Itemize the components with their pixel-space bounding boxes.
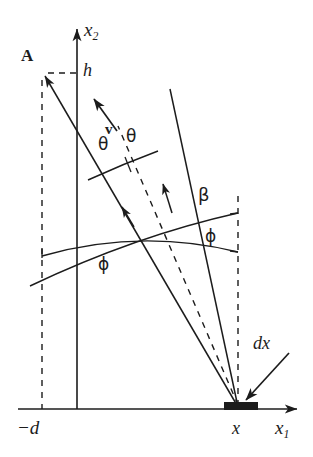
label-x1-axis: x1 xyxy=(275,418,289,440)
label-theta-right: θ xyxy=(126,128,136,145)
tick-theta-bisector xyxy=(125,157,131,172)
direction-arrowhead-right-ray xyxy=(163,184,172,213)
cone-bisector-dashed xyxy=(118,126,238,405)
label-element-dx: dx xyxy=(253,334,270,352)
label-x2-axis: x2 xyxy=(84,20,98,42)
label-offset-minus-d: −d xyxy=(17,418,39,437)
label-height-h: h xyxy=(83,61,92,79)
cone-ray-right xyxy=(170,89,238,407)
direction-arrowhead-left-ray xyxy=(122,207,134,227)
label-phi-right: ϕ xyxy=(205,228,216,245)
dx-callout-arrow xyxy=(246,353,289,400)
label-phi-left: ϕ xyxy=(98,256,109,273)
label-theta-left: θ xyxy=(98,136,108,153)
label-beta: β xyxy=(198,186,210,204)
surface-element-dx xyxy=(224,402,258,410)
diagram-canvas xyxy=(0,0,313,457)
arc-theta xyxy=(88,151,158,180)
label-point-a: A xyxy=(21,47,33,64)
label-position-x: x xyxy=(232,419,240,437)
arc-beta xyxy=(30,213,238,286)
geometry-figure: A x2 h v θ θ β ϕ ϕ dx −d x x1 xyxy=(0,0,313,457)
